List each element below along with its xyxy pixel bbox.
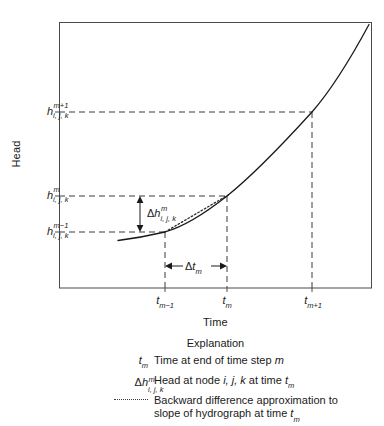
legend-text-bd-tsub: m <box>293 415 299 424</box>
explanation-legend: tm Time at end of time step m Δhmi, j, k… <box>62 354 380 426</box>
figure-container: Head Time hm+1i, j, k hmi, j, k hm−1i, j… <box>0 0 384 426</box>
legend-text-dh-a: Head at node <box>154 374 223 386</box>
legend-text-t-m: Time at end of time step m <box>154 354 380 367</box>
legend-text-t-m-italic: m <box>275 354 284 366</box>
legend-item-t-m: tm Time at end of time step m <box>62 354 380 371</box>
y-tick-sup-2: m−1 <box>54 222 69 230</box>
legend-text-delta-h: Head at node i, j, k at time tm <box>154 374 380 391</box>
x-tick-label-t-m-minus-1: tm−1 <box>140 294 190 309</box>
x-axis-ticks <box>165 288 312 292</box>
delta-h-sup: m <box>161 204 167 213</box>
y-tick-sup-1: m <box>54 186 60 194</box>
legend-text-backward-difference: Backward difference approximation to slo… <box>154 394 380 424</box>
legend-key-dotted-swatch <box>62 394 154 407</box>
legend-key-t-sub: m <box>142 361 148 370</box>
x-tick-label-t-m: tm <box>204 294 250 309</box>
legend-item-backward-difference: Backward difference approximation to slo… <box>62 394 380 424</box>
explanation-title: Explanation <box>59 337 372 349</box>
x-tick-sub-2: m+1 <box>307 301 322 310</box>
y-tick-sub-1: i, j, k <box>53 196 68 204</box>
legend-key-dh-prefix: Δ <box>135 376 142 388</box>
legend-text-dh-b: at time <box>246 374 285 386</box>
delta-t-sub: m <box>195 267 201 276</box>
legend-key-t-m: tm <box>62 354 154 371</box>
y-tick-label-h-m-plus-1: hm+1i, j, k <box>4 106 53 117</box>
legend-item-delta-h: Δhmi, j, k Head at node i, j, k at time … <box>62 374 380 391</box>
x-axis-title: Time <box>59 316 372 328</box>
x-tick-sub-1: m <box>225 301 231 310</box>
legend-text-bd-line2: slope of hydrograph at time tm <box>154 407 380 424</box>
dotted-line-icon <box>114 399 148 400</box>
delta-h-sub: i, j, k <box>160 214 175 223</box>
legend-text-bd-line1: Backward difference approximation to <box>154 394 380 407</box>
delta-h-measure-arrow <box>137 196 144 232</box>
legend-text-dh-tsub: m <box>288 381 294 390</box>
legend-text-t-m-before: Time at end of time step <box>154 354 275 366</box>
legend-key-delta-h: Δhmi, j, k <box>62 376 154 389</box>
y-tick-sub-2: i, j, k <box>53 232 68 240</box>
x-tick-label-t-m-plus-1: tm+1 <box>288 294 338 309</box>
y-tick-sup-0: m+1 <box>54 102 69 110</box>
y-tick-label-h-m: hmi, j, k <box>4 190 53 201</box>
delta-t-annotation-label: Δtm <box>185 260 202 275</box>
plot-frame <box>60 23 372 289</box>
legend-text-dh-nodes: i, j, k <box>223 374 246 386</box>
x-tick-sub-0: m−1 <box>159 301 174 310</box>
delta-h-annotation-label: Δhmi, j, k <box>147 207 160 219</box>
y-axis-title: Head <box>10 124 22 184</box>
y-tick-sub-0: i, j, k <box>53 112 68 120</box>
y-axis-ticks <box>55 112 59 232</box>
y-tick-label-h-m-minus-1: hm−1i, j, k <box>4 226 53 237</box>
legend-text-bd-line2-a: slope of hydrograph at time <box>154 407 290 419</box>
